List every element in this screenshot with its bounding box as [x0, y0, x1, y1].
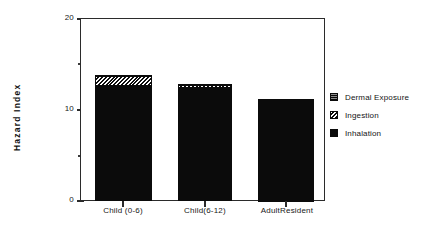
- legend-item-inhalation: Inhalation: [330, 124, 409, 142]
- x-tick-label-child-6-12: Child(6-12): [170, 206, 240, 215]
- chart-figure: Hazard Index 20 10 0 Child (0: [0, 0, 439, 231]
- legend-swatch-stipple-icon: [330, 93, 338, 101]
- legend-label-inhalation: Inhalation: [345, 129, 381, 138]
- legend: Dermal Exposure Ingestion Inhalation: [330, 88, 409, 142]
- y-tick-label-20: 20: [58, 13, 74, 22]
- bar-segment-ingestion: [95, 76, 152, 85]
- plot-area: [80, 18, 325, 201]
- legend-item-ingestion: Ingestion: [330, 106, 409, 124]
- legend-label-dermal-exposure: Dermal Exposure: [345, 93, 409, 102]
- legend-swatch-hatch-icon: [330, 111, 338, 119]
- y-tick-label-10: 10: [58, 104, 74, 113]
- y-axis-title: Hazard Index: [12, 62, 26, 172]
- bar-segment-inhalation: [178, 87, 232, 201]
- legend-swatch-solid-icon: [330, 129, 338, 137]
- legend-item-dermal-exposure: Dermal Exposure: [330, 88, 409, 106]
- bar-stack-adult-resident: [258, 99, 314, 200]
- y-tick-label-0: 0: [58, 195, 74, 204]
- bar-segment-inhalation: [95, 85, 152, 201]
- x-tick-label-adult-resident: AdultResident: [250, 206, 324, 215]
- x-tick-label-child-0-6: Child (0-6): [88, 206, 158, 215]
- legend-label-ingestion: Ingestion: [345, 111, 379, 120]
- bar-segment-inhalation: [258, 101, 314, 202]
- bar-stack-child-0-6: [95, 75, 152, 200]
- bar-stack-child-6-12: [178, 84, 232, 200]
